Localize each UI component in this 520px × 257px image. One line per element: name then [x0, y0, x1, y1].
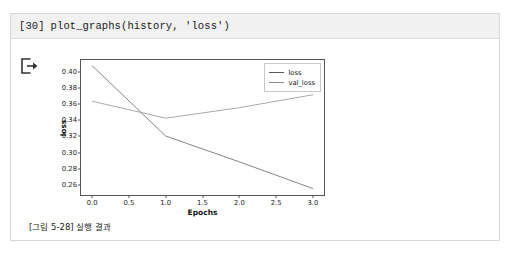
xtick-mark: [92, 195, 93, 198]
xtick-mark: [312, 195, 313, 198]
xtick-mark: [128, 195, 129, 198]
ytick-label: 0.38: [62, 84, 77, 92]
xtick-label: 0.0: [87, 199, 98, 207]
output-arrow-icon: [19, 57, 39, 75]
xtick-mark: [202, 195, 203, 198]
xtick-mark: [276, 195, 277, 198]
xtick-mark: [165, 195, 166, 198]
plot-axes: 0.26 0.28 0.30 0.32 0.34 0.36 0.38 0.40: [80, 59, 325, 196]
code-cell-output: 0.26 0.28 0.30 0.32 0.34 0.36 0.38 0.40: [11, 39, 499, 240]
screenshot-root: [30] plot_graphs(history, 'loss') 0.26 0…: [0, 0, 520, 257]
xtick-label: 0.5: [123, 199, 134, 207]
legend-item-val-loss: val_loss: [269, 78, 315, 87]
xtick-mark: [239, 195, 240, 198]
code-source-text: plot_graphs(history, 'loss'): [51, 20, 230, 32]
ytick-label: 0.30: [62, 149, 77, 157]
legend-swatch-val-loss: [269, 82, 284, 83]
legend-item-loss: loss: [269, 68, 315, 77]
code-cell-input[interactable]: [30] plot_graphs(history, 'loss'): [11, 14, 499, 39]
ytick-label: 0.40: [62, 68, 77, 76]
ytick-label: 0.28: [62, 165, 77, 173]
xtick-label: 2.0: [234, 199, 245, 207]
figure-caption: [그림 5-28] 실행 결과: [29, 220, 111, 232]
legend-label-val-loss: val_loss: [288, 79, 315, 87]
y-axis-label: loss: [59, 119, 68, 136]
xtick-label: 1.0: [160, 199, 171, 207]
ytick-label: 0.26: [62, 181, 77, 189]
x-axis-label: Epochs: [188, 208, 218, 217]
ytick-label: 0.36: [62, 100, 77, 108]
matplotlib-figure: 0.26 0.28 0.30 0.32 0.34 0.36 0.38 0.40: [49, 49, 339, 219]
xtick-label: 1.5: [197, 199, 208, 207]
legend-label-loss: loss: [288, 69, 301, 77]
plot-legend: loss val_loss: [264, 63, 321, 92]
legend-swatch-loss: [269, 72, 284, 73]
notebook-cell: [30] plot_graphs(history, 'loss') 0.26 0…: [10, 13, 500, 241]
series-val-loss-line: [92, 95, 313, 118]
execution-count-label: [30]: [19, 20, 45, 32]
xtick-label: 2.5: [271, 199, 282, 207]
xtick-label: 3.0: [308, 199, 319, 207]
